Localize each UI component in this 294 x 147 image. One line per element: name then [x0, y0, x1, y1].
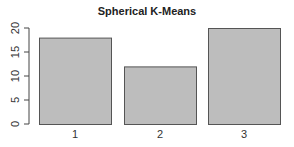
bars: [40, 29, 281, 125]
bar-1: [40, 38, 112, 124]
y-tick-label: 0: [9, 121, 21, 127]
y-tick-label: 15: [9, 46, 21, 58]
x-category-label: 1: [72, 128, 78, 140]
bar-3: [209, 29, 281, 125]
y-tick-label: 10: [9, 70, 21, 82]
y-tick-label: 20: [9, 22, 21, 34]
y-axis: 05101520: [9, 22, 29, 127]
x-axis-labels: 123: [72, 128, 247, 140]
bar-chart: 05101520 123: [0, 0, 294, 147]
x-category-label: 2: [157, 128, 163, 140]
bar-2: [125, 67, 197, 125]
y-tick-label: 5: [9, 97, 21, 103]
x-category-label: 3: [241, 128, 247, 140]
